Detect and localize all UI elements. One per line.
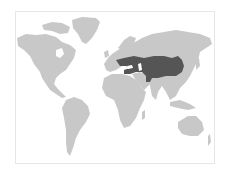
south-america [62, 97, 90, 156]
world-map [0, 0, 226, 171]
british-isles [104, 50, 109, 58]
north-america [17, 34, 76, 98]
australia [178, 116, 204, 136]
southeast-asia-islands [170, 100, 196, 110]
greenland [72, 17, 100, 44]
madagascar [142, 110, 145, 120]
new-zealand [208, 134, 211, 146]
arctic-islands [42, 22, 70, 34]
japan [196, 58, 200, 70]
